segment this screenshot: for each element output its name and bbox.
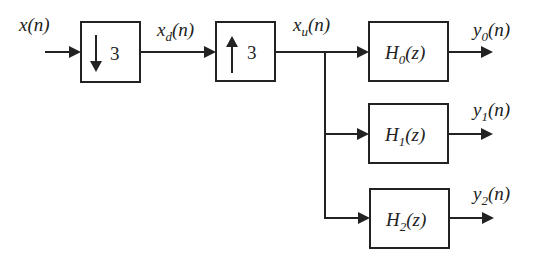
input-signal-label: x(n) bbox=[18, 14, 50, 36]
arrow-head-icon bbox=[481, 46, 493, 58]
multirate-block-diagram: x(n) 3 xd(n) 3 xu(n) H0(z) y0(n) bbox=[0, 0, 544, 263]
output-y1-label: y1(n) bbox=[471, 99, 510, 124]
output-y0-label: y0(n) bbox=[471, 19, 510, 44]
output-y2-label: y2(n) bbox=[471, 183, 510, 208]
downsampler-block: 3 bbox=[81, 22, 140, 82]
arrow-head-icon bbox=[482, 212, 494, 224]
filter-h2-block: H2(z) bbox=[370, 189, 449, 248]
output-wire-1 bbox=[448, 128, 493, 140]
output-wire-0 bbox=[448, 46, 493, 58]
decimated-wire bbox=[140, 46, 216, 58]
arrow-head-icon bbox=[69, 46, 81, 58]
arrow-head-icon bbox=[481, 128, 493, 140]
arrow-head-icon bbox=[204, 46, 216, 58]
branch-wires bbox=[275, 46, 370, 224]
downsample-factor: 3 bbox=[110, 43, 120, 64]
arrow-head-icon bbox=[358, 212, 370, 224]
upsampler-block: 3 bbox=[216, 22, 275, 81]
filter-h1-block: H1(z) bbox=[369, 104, 448, 163]
upsample-factor: 3 bbox=[247, 42, 257, 63]
input-wire bbox=[45, 46, 81, 58]
decimated-signal-label: xd(n) bbox=[156, 19, 194, 44]
output-wire-2 bbox=[449, 212, 494, 224]
upsampled-signal-label: xu(n) bbox=[292, 14, 330, 39]
arrow-head-icon bbox=[357, 46, 369, 58]
arrow-head-icon bbox=[357, 128, 369, 140]
filter-h0-block: H0(z) bbox=[369, 22, 448, 81]
